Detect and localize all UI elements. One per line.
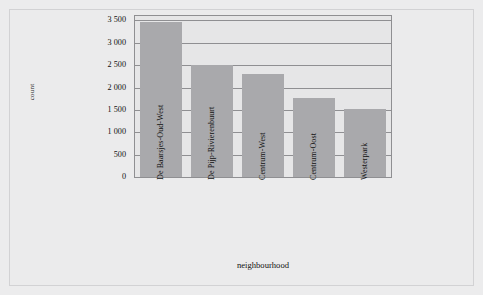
y-tick-label: 500	[114, 151, 126, 159]
y-tick-label: 2 500	[108, 61, 126, 69]
y-tick-label: 1 000	[108, 128, 126, 136]
bar-chart: count 05001 0001 5002 0002 5003 0003 500…	[10, 10, 475, 287]
x-axis-tick-labels: De Baarsjes-Oud-WestDe Pijp-Rivierenbuur…	[134, 180, 392, 260]
y-axis-title: count	[28, 62, 36, 122]
y-tick-label: 3 500	[108, 16, 126, 24]
y-tick-label: 3 000	[108, 39, 126, 47]
y-axis-tick-labels: 05001 0001 5002 0002 5003 0003 500	[90, 16, 130, 184]
y-tick-label: 0	[122, 173, 126, 181]
figure-frame: count 05001 0001 5002 0002 5003 0003 500…	[9, 9, 474, 286]
x-axis-title: neighbourhood	[134, 260, 392, 270]
y-tick-label: 1 500	[108, 106, 126, 114]
y-tick-label: 2 000	[108, 83, 126, 91]
